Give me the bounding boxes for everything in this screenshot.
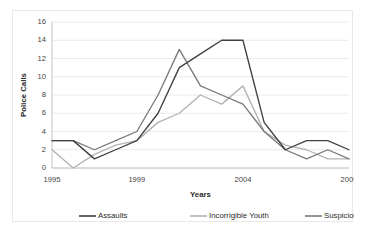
y-axis-tick-label: 10	[38, 72, 46, 81]
line-chart: 02468101214161995199920042009YearsPolice…	[13, 11, 354, 223]
x-axis-tick-label: 2009	[341, 175, 354, 184]
y-axis-tick-label: 0	[42, 163, 46, 172]
x-axis-title: Years	[190, 190, 211, 199]
y-axis-tick-label: 4	[42, 127, 46, 136]
x-axis-tick-label: 1995	[44, 175, 61, 184]
y-axis-tick-label: 8	[42, 90, 46, 99]
y-axis-tick-label: 14	[38, 35, 46, 44]
legend-label: Suspicious Activity	[324, 211, 354, 220]
data-series-line	[52, 49, 349, 159]
y-axis-title: Police Calls	[19, 72, 28, 116]
data-series-line	[52, 86, 349, 168]
y-axis-tick-label: 12	[38, 54, 46, 63]
chart-container: 02468101214161995199920042009YearsPolice…	[12, 10, 353, 222]
y-axis-tick-label: 16	[38, 17, 46, 26]
plot-area: 02468101214161995199920042009YearsPolice…	[13, 11, 354, 223]
y-axis-tick-label: 6	[42, 108, 46, 117]
y-axis-tick-label: 2	[42, 145, 46, 154]
legend-label: Incorrigible Youth	[209, 211, 269, 220]
x-axis-tick-label: 1999	[128, 175, 145, 184]
data-series-line	[52, 40, 349, 159]
legend-label: Assaults	[98, 211, 128, 220]
x-axis-tick-label: 2004	[234, 175, 251, 184]
